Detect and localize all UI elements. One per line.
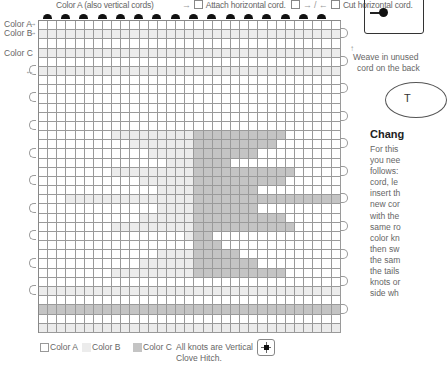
grid-cell (204, 140, 213, 149)
grid-cell (231, 58, 240, 67)
grid-cell (149, 67, 158, 76)
grid-cell (121, 195, 130, 204)
grid-cell (213, 296, 222, 305)
grid-cell (158, 241, 167, 250)
grid-cell (112, 104, 121, 113)
left-loop-icon (29, 148, 36, 158)
grid-cell (176, 30, 185, 39)
grid-cell (85, 58, 94, 67)
grid-cell (222, 269, 231, 278)
grid-cell (158, 278, 167, 287)
grid-cell (48, 67, 57, 76)
grid-cell (286, 195, 295, 204)
grid-cell (194, 159, 203, 168)
grid-cell (194, 149, 203, 158)
grid-cell (130, 278, 139, 287)
grid-cell (277, 67, 286, 76)
grid-cell (94, 315, 103, 324)
grid-cell (85, 250, 94, 259)
grid-cell (204, 241, 213, 250)
grid-cell (194, 305, 203, 314)
grid-cell (66, 168, 75, 177)
grid-cell (258, 122, 267, 131)
grid-cell (322, 159, 331, 168)
grid-cell (231, 324, 240, 333)
grid-cell (94, 186, 103, 195)
grid-cell (121, 168, 130, 177)
grid-cell (103, 278, 112, 287)
grid-cell (57, 76, 66, 85)
grid-cell (85, 269, 94, 278)
grid-cell (240, 122, 249, 131)
grid-cell (158, 94, 167, 103)
grid-cell (57, 204, 66, 213)
grid-cell (149, 269, 158, 278)
grid-cell (249, 67, 258, 76)
grid-cell (231, 94, 240, 103)
grid-cell (57, 324, 66, 333)
grid-cell (286, 214, 295, 223)
grid-cell (249, 223, 258, 232)
grid-cell (121, 76, 130, 85)
grid-cell (277, 149, 286, 158)
grid-cell (304, 58, 313, 67)
grid-cell (249, 168, 258, 177)
cut-box-icon-2 (331, 0, 340, 9)
grid-cell (121, 122, 130, 131)
grid-cell (222, 305, 231, 314)
grid-cell (249, 85, 258, 94)
grid-cell (85, 287, 94, 296)
grid-cell (332, 49, 341, 58)
grid-cell (185, 131, 194, 140)
grid-cell (268, 241, 277, 250)
grid-cell (112, 149, 121, 158)
grid-cell (48, 168, 57, 177)
side-body-line: the tails (370, 266, 401, 277)
grid-cell (249, 278, 258, 287)
grid-cell (222, 296, 231, 305)
grid-cell (213, 259, 222, 268)
grid-cell (304, 278, 313, 287)
grid-cell (240, 223, 249, 232)
grid-cell (286, 315, 295, 324)
grid-cell (231, 214, 240, 223)
grid-cell (76, 296, 85, 305)
grid-cell (167, 159, 176, 168)
grid-cell (231, 159, 240, 168)
grid-cell (194, 324, 203, 333)
side-body-line: insert th (370, 188, 401, 199)
grid-cell (121, 113, 130, 122)
grid-cell (258, 58, 267, 67)
grid-cell (39, 269, 48, 278)
grid-cell (149, 186, 158, 195)
grid-cell (94, 67, 103, 76)
grid-cell (66, 159, 75, 168)
grid-cell (167, 315, 176, 324)
grid-cell (213, 241, 222, 250)
grid-cell (277, 131, 286, 140)
grid-cell (295, 177, 304, 186)
grid-cell (57, 131, 66, 140)
grid-cell (158, 58, 167, 67)
grid-cell (322, 94, 331, 103)
grid-cell (194, 49, 203, 58)
grid-cell (185, 49, 194, 58)
grid-cell (149, 177, 158, 186)
grid-cell (194, 177, 203, 186)
left-loop-icon (29, 258, 36, 268)
grid-cell (121, 104, 130, 113)
grid-cell (295, 241, 304, 250)
grid-cell (140, 122, 149, 131)
grid-cell (286, 30, 295, 39)
grid-cell (222, 223, 231, 232)
grid-cell (295, 39, 304, 48)
grid-cell (66, 39, 75, 48)
grid-cell (249, 315, 258, 324)
grid-cell (313, 113, 322, 122)
grid-cell (39, 94, 48, 103)
grid-cell (304, 287, 313, 296)
grid-cell (158, 131, 167, 140)
grid-cell (295, 232, 304, 241)
grid-cell (295, 149, 304, 158)
grid-cell (268, 67, 277, 76)
